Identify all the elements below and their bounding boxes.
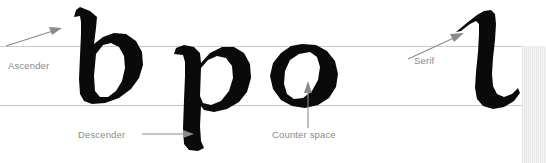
label-ascender: Ascender	[8, 60, 49, 71]
descender-arrow-icon	[140, 126, 200, 142]
counter-space-arrow-icon	[296, 80, 320, 130]
page-edge-strip	[522, 46, 546, 163]
letter-anatomy-diagram: Ascender Descender Counter space Serif	[0, 0, 546, 163]
label-serif: Serif	[414, 55, 434, 66]
glyph-b	[56, 4, 152, 114]
ascender-arrow-icon	[0, 22, 70, 50]
label-descender: Descender	[78, 129, 125, 140]
label-counter-space: Counter space	[272, 129, 336, 140]
